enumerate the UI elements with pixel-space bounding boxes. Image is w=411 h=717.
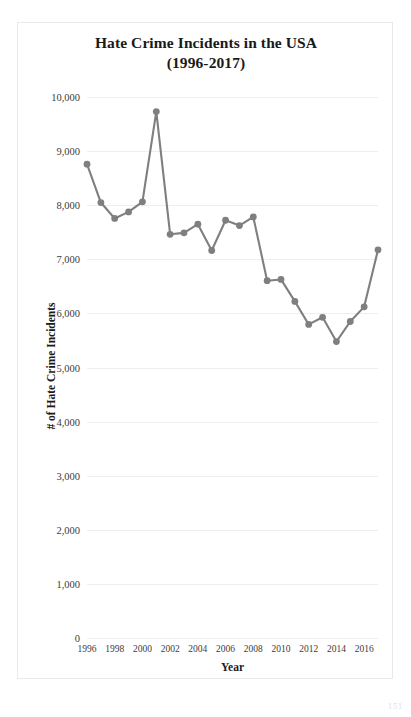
page-number: 151: [388, 702, 403, 711]
data-point-marker: [139, 198, 146, 205]
x-tick-label: 2014: [327, 644, 346, 654]
y-tick-label: 4,000: [56, 416, 80, 427]
x-tick-label: 2006: [216, 644, 235, 654]
line-series: [87, 97, 378, 638]
x-tick-label: 1996: [78, 644, 97, 654]
x-tick-label: 2012: [299, 644, 318, 654]
y-tick-label: 9,000: [56, 146, 80, 157]
y-tick-label: 1,000: [56, 578, 80, 589]
chart-title-line-1: Hate Crime Incidents in the USA: [95, 34, 317, 51]
data-point-marker: [305, 321, 312, 328]
data-point-marker: [84, 161, 91, 168]
chart-title-line-2: (1996-2017): [18, 53, 394, 73]
data-point-marker: [333, 338, 340, 345]
data-point-marker: [375, 246, 382, 253]
y-tick-label: 6,000: [56, 308, 80, 319]
y-tick-label: 0: [75, 633, 80, 644]
data-point-marker: [347, 318, 354, 325]
data-point-marker: [181, 229, 188, 236]
data-point-marker: [264, 277, 271, 284]
y-tick-label: 8,000: [56, 200, 80, 211]
data-point-marker: [319, 314, 326, 321]
x-tick-label: 2000: [133, 644, 152, 654]
x-axis-title: Year: [87, 661, 378, 673]
data-point-marker: [250, 214, 257, 221]
data-point-marker: [125, 209, 132, 216]
y-tick-label: 10,000: [51, 92, 80, 103]
plot-area: 01,0002,0003,0004,0005,0006,0007,0008,00…: [87, 97, 378, 638]
data-point-marker: [222, 217, 229, 224]
data-point-marker: [97, 199, 104, 206]
y-axis-title: # of Hate Crime Incidents: [45, 286, 57, 446]
y-tick-label: 5,000: [56, 362, 80, 373]
chart-figure: Hate Crime Incidents in the USA (1996-20…: [17, 22, 393, 679]
series-polyline: [87, 112, 378, 342]
series-markers: [84, 108, 382, 345]
data-point-marker: [291, 298, 298, 305]
x-tick-label: 2008: [244, 644, 263, 654]
x-tick-label: 2016: [355, 644, 374, 654]
x-tick-label: 2010: [272, 644, 291, 654]
x-tick-label: 2004: [188, 644, 207, 654]
gridline: [87, 638, 378, 639]
data-point-marker: [208, 247, 215, 254]
x-tick-label: 1998: [105, 644, 124, 654]
data-point-marker: [361, 303, 368, 310]
x-tick-label: 2002: [161, 644, 180, 654]
data-point-marker: [167, 231, 174, 238]
data-point-marker: [153, 108, 160, 115]
chart-title: Hate Crime Incidents in the USA (1996-20…: [18, 33, 394, 73]
data-point-marker: [236, 222, 243, 229]
y-tick-label: 7,000: [56, 254, 80, 265]
y-tick-label: 3,000: [56, 470, 80, 481]
y-tick-label: 2,000: [56, 524, 80, 535]
data-point-marker: [278, 276, 285, 283]
data-point-marker: [194, 221, 201, 228]
data-point-marker: [111, 215, 118, 222]
